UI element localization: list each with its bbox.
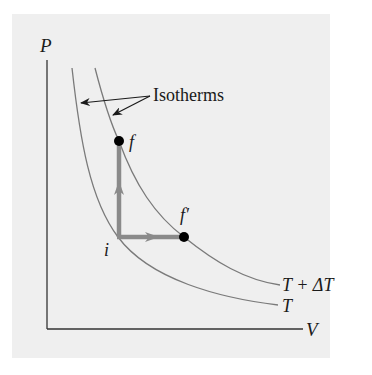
isotherms-callout-label: Isotherms (153, 85, 224, 105)
pv-diagram: P V Isotherms f f′ i T + ΔT T (0, 0, 372, 375)
point-f-prime (179, 232, 189, 242)
point-f (114, 136, 124, 146)
point-f-prime-label: f′ (180, 205, 190, 225)
isotherm-t-plus-dt-label: T + ΔT (282, 275, 335, 295)
isotherm-t-label: T (282, 296, 294, 316)
p-axis-label: P (39, 35, 52, 56)
v-axis-label: V (306, 319, 320, 340)
point-f-label: f (129, 132, 137, 152)
point-i-label: i (104, 240, 109, 260)
